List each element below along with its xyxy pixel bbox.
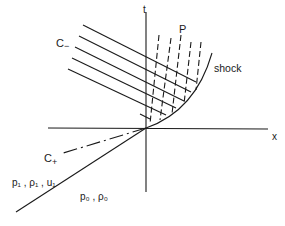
x-axis-label: x bbox=[272, 131, 277, 142]
c-minus-label: C− bbox=[56, 37, 69, 51]
point-p-label: P bbox=[179, 23, 186, 35]
shock-characteristics-diagram: t x P shock C− C+ p₁ , ρ₁ , u₁ p₀ , ρ₀ bbox=[0, 0, 285, 226]
c-plus-label: C+ bbox=[44, 152, 57, 167]
x-axis bbox=[48, 128, 268, 129]
upstream-region-label: p₁ , ρ₁ , u₁ bbox=[12, 177, 56, 188]
shock-label: shock bbox=[214, 62, 242, 74]
c-plus-characteristic bbox=[60, 128, 146, 154]
ambient-region-label: p₀ , ρ₀ bbox=[80, 191, 108, 202]
t-axis-label: t bbox=[143, 4, 146, 15]
